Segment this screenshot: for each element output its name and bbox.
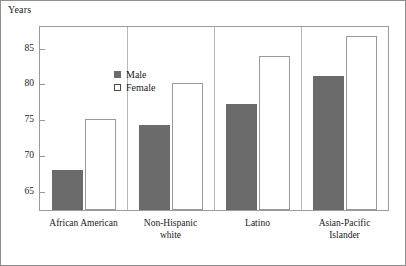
y-axis-tick-label: 85 xyxy=(25,43,35,53)
y-axis-tick-label: 80 xyxy=(25,78,35,88)
y-axis-tick-mark xyxy=(40,192,45,193)
bar-female xyxy=(85,119,116,210)
group-separator xyxy=(214,27,215,210)
chart-figure: Years 6570758085 Male Female African Ame… xyxy=(0,0,406,266)
y-axis-tick-label: 65 xyxy=(25,186,35,196)
legend-swatch-male-icon xyxy=(114,71,121,78)
x-axis-category-label: African American xyxy=(40,217,127,229)
bar-male xyxy=(226,104,257,210)
bar-male xyxy=(313,76,344,210)
bar-female xyxy=(259,56,290,210)
bar-female xyxy=(346,36,377,210)
y-axis-tick-mark xyxy=(40,84,45,85)
x-axis-category-label: Latino xyxy=(214,217,301,229)
group-separator xyxy=(127,27,128,210)
y-axis-tick-label: 70 xyxy=(25,150,35,160)
legend-label-male: Male xyxy=(126,68,147,81)
legend-label-female: Female xyxy=(126,81,155,94)
legend-entry-female: Female xyxy=(114,81,155,94)
chart-legend: Male Female xyxy=(114,68,155,94)
y-axis-tick-label: 75 xyxy=(25,114,35,124)
legend-swatch-female-icon xyxy=(114,84,121,91)
y-axis-tick-mark xyxy=(40,120,45,121)
plot-area: 6570758085 Male Female xyxy=(39,26,389,211)
bar-male xyxy=(139,125,170,210)
y-axis-tick-mark xyxy=(40,156,45,157)
legend-entry-male: Male xyxy=(114,68,155,81)
bar-male xyxy=(52,170,83,210)
plot-inner-surface: 6570758085 Male Female xyxy=(40,27,388,210)
x-axis-category-label: Asian-Pacific Islander xyxy=(301,217,388,241)
y-axis-title: Years xyxy=(8,4,31,15)
y-axis-tick-mark xyxy=(40,49,45,50)
group-separator xyxy=(301,27,302,210)
x-axis-category-label: Non-Hispanic white xyxy=(127,217,214,241)
bar-female xyxy=(172,83,203,210)
